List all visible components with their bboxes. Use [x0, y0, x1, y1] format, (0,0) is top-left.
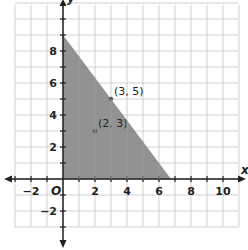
x-tick-label: 2: [91, 185, 99, 198]
x-axis-arrow-left-icon: [4, 176, 12, 183]
x-tick-label: 6: [155, 185, 163, 198]
y-tick-label: −2: [40, 205, 57, 218]
y-tick-label: 4: [49, 109, 57, 122]
y-tick-label: 2: [49, 141, 57, 154]
origin-label: O: [51, 184, 61, 198]
coordinate-plane: −2246810−22468 x y O (3, 5)(2, 3): [0, 0, 248, 250]
x-tick-label: 4: [123, 185, 131, 198]
x-tick-label: 8: [187, 185, 195, 198]
y-tick-label: 6: [49, 77, 57, 90]
y-tick-label: 8: [49, 45, 57, 58]
point-label: (3, 5): [114, 85, 144, 98]
x-axis-label: x: [240, 163, 248, 177]
x-tick-label: −2: [23, 185, 40, 198]
x-tick-label: 10: [215, 185, 231, 198]
point-label: (2, 3): [98, 117, 128, 130]
y-axis-arrow-down-icon: [60, 240, 67, 248]
y-axis-label: y: [67, 0, 76, 5]
